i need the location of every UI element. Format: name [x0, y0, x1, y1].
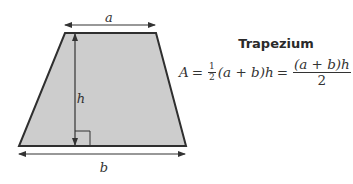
shape-title: Trapezium	[236, 36, 316, 51]
label-b: b	[100, 160, 108, 175]
fraction-denominator: 2	[318, 73, 327, 87]
half-numerator: 1	[208, 62, 216, 72]
label-a: a	[105, 10, 113, 25]
formula-fraction: (a + b)h 2	[293, 57, 351, 86]
formula-lhs: A	[179, 64, 189, 80]
half-denominator: 2	[209, 73, 215, 82]
fraction-numerator: (a + b)h	[293, 57, 351, 72]
trapezium-shape	[19, 33, 186, 146]
area-formula: A = 1 2 (a + b)h = (a + b)h 2	[179, 55, 353, 89]
formula-equals-2: =	[277, 64, 288, 80]
label-h: h	[77, 91, 85, 106]
formula-middle: (a + b)h	[218, 64, 274, 80]
formula-equals-1: =	[192, 64, 203, 80]
formula-half: 1 2	[208, 62, 216, 82]
